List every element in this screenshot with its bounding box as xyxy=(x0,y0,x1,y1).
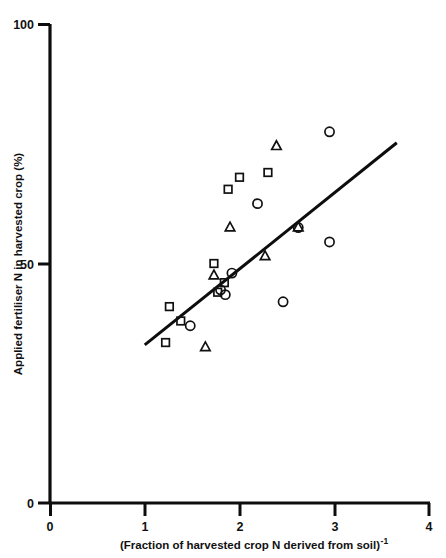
y-axis-title: Applied fertiliser N in harvested crop (… xyxy=(12,153,24,376)
data-point-circle xyxy=(325,127,334,136)
data-point-triangle xyxy=(225,222,235,231)
data-point-square xyxy=(166,303,174,311)
data-point-circle xyxy=(253,199,262,208)
data-point-triangle xyxy=(209,270,219,279)
figure-scatter-plot: 100 50 0 Applied fertiliser N in harvest… xyxy=(0,0,446,558)
data-point-square xyxy=(224,185,232,193)
x-tick-label-0: 0 xyxy=(47,520,54,534)
x-axis-title-superscript: -1 xyxy=(381,536,389,546)
data-point-triangle xyxy=(272,141,282,150)
x-tick-label-3: 3 xyxy=(332,520,339,534)
plot-canvas: 100 50 0 Applied fertiliser N in harvest… xyxy=(0,0,446,558)
data-point-triangle xyxy=(201,342,211,351)
x-tick-label-1: 1 xyxy=(142,520,149,534)
data-point-square xyxy=(264,169,272,177)
x-axis-title: (Fraction of harvested crop N derived fr… xyxy=(120,539,380,551)
data-point-circle xyxy=(325,237,334,246)
y-axis-group: 100 50 0 Applied fertiliser N in harvest… xyxy=(12,18,50,511)
data-point-circle xyxy=(186,321,195,330)
regression-line-group xyxy=(145,143,397,345)
x-tick-label-4: 4 xyxy=(426,520,433,534)
regression-line xyxy=(145,143,397,345)
series-circle xyxy=(186,127,334,330)
y-tick-label-100: 100 xyxy=(13,18,34,32)
data-point-square xyxy=(162,339,170,347)
data-markers-group xyxy=(162,127,334,350)
y-tick-label-0: 0 xyxy=(27,497,34,511)
x-axis-group: 0 1 2 3 4 (Fraction of harvested crop N … xyxy=(47,503,433,551)
data-point-square xyxy=(210,260,218,268)
data-point-square xyxy=(236,173,244,181)
data-point-circle xyxy=(278,297,287,306)
series-triangle xyxy=(201,141,303,351)
x-tick-label-2: 2 xyxy=(237,520,244,534)
